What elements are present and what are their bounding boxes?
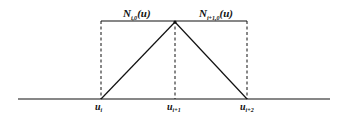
peak-point bbox=[173, 20, 176, 23]
hat-falling-edge bbox=[175, 22, 247, 99]
hat-rising-edge bbox=[101, 22, 175, 99]
basis-function-diagram: Ni,0(u) Ni+1,0(u) ui ui+1 ui+2 bbox=[0, 0, 340, 119]
knot-label-ui2: ui+2 bbox=[240, 101, 254, 113]
knot-label-ui1: ui+1 bbox=[167, 101, 181, 113]
knot-label-ui: ui bbox=[95, 101, 103, 113]
label-n-i0: Ni,0(u) bbox=[122, 7, 151, 21]
label-n-i1-0: Ni+1,0(u) bbox=[198, 7, 233, 21]
